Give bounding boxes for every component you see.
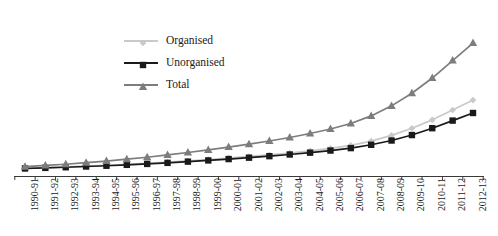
x-tick-label-text: 2001-02 — [254, 178, 264, 211]
x-tick-label: 1999-00 — [213, 178, 223, 211]
line-chart: Organised Unorganised Total 1990-911991-… — [0, 0, 498, 236]
legend-label-unorganised: Unorganised — [166, 56, 225, 69]
legend-item-unorganised: Unorganised — [124, 56, 225, 69]
x-tick-label: 1991-92 — [50, 178, 60, 211]
x-tick-label-text: 1998-99 — [192, 178, 202, 211]
x-tick-label-text: 2003-04 — [294, 178, 304, 211]
x-tick-label: 2006-07 — [355, 178, 365, 211]
x-tick-label-text: 1990-91 — [30, 178, 40, 211]
x-tick-label: 1990-91 — [30, 178, 40, 211]
x-axis-tick-labels: 1990-911991-921992-931993-941994-951995-… — [0, 178, 498, 236]
x-tick-label: 2007-08 — [376, 178, 386, 211]
x-tick-label: 1996-97 — [152, 178, 162, 211]
x-tick-label-text: 2011-12 — [457, 178, 467, 211]
plot-svg — [0, 0, 498, 180]
x-tick-label-text: 1993-94 — [91, 178, 101, 211]
x-tick-label-text: 1999-00 — [213, 178, 223, 211]
x-tick-label: 2000-01 — [233, 178, 243, 211]
x-tick-label: 2012-13 — [478, 178, 488, 211]
x-tick-label: 2003-04 — [294, 178, 304, 211]
x-tick-label: 2008-09 — [396, 178, 406, 211]
x-tick-label: 2009-10 — [416, 178, 426, 211]
x-tick-label-text: 2000-01 — [233, 178, 243, 211]
x-tick-label-text: 1995-96 — [131, 178, 141, 211]
x-tick-label-text: 2002-03 — [274, 178, 284, 211]
legend-key-unorganised-marker — [137, 59, 149, 71]
x-tick-label: 1992-93 — [70, 178, 80, 211]
x-tick-label: 1993-94 — [91, 178, 101, 211]
x-tick-label: 1995-96 — [131, 178, 141, 211]
x-tick-label-text: 2004-05 — [315, 178, 325, 211]
chart-legend: Organised Unorganised Total — [124, 34, 225, 91]
x-tick-label-text: 2007-08 — [376, 178, 386, 211]
legend-key-organised — [124, 34, 158, 47]
legend-key-organised-marker — [137, 37, 149, 49]
x-tick-label: 2005-06 — [335, 178, 345, 211]
x-tick-label: 2001-02 — [254, 178, 264, 211]
x-tick-label: 2010-11 — [437, 178, 447, 211]
x-tick-label-text: 2005-06 — [335, 178, 345, 211]
x-tick-label-text: 2010-11 — [437, 178, 447, 211]
legend-item-total: Total — [124, 78, 225, 91]
x-tick-label: 1998-99 — [192, 178, 202, 211]
legend-label-organised: Organised — [166, 34, 213, 47]
x-tick-label-text: 2012-13 — [478, 178, 488, 211]
x-tick-label-text: 1996-97 — [152, 178, 162, 211]
x-tick-label-text: 1992-93 — [70, 178, 80, 211]
legend-key-total-marker — [137, 81, 149, 93]
x-tick-label: 2002-03 — [274, 178, 284, 211]
legend-key-total — [124, 78, 158, 91]
x-tick-label: 2004-05 — [315, 178, 325, 211]
x-tick-label: 1997-98 — [172, 178, 182, 211]
legend-label-total: Total — [166, 78, 189, 91]
x-tick-label-text: 2009-10 — [416, 178, 426, 211]
legend-key-unorganised — [124, 56, 158, 69]
x-tick-label-text: 2006-07 — [355, 178, 365, 211]
legend-item-organised: Organised — [124, 34, 225, 47]
x-tick-label-text: 1997-98 — [172, 178, 182, 211]
plot-area — [0, 0, 498, 180]
x-tick-label-text: 1991-92 — [50, 178, 60, 211]
x-tick-label: 2011-12 — [457, 178, 467, 211]
x-tick-label-text: 1994-95 — [111, 178, 121, 211]
x-tick-label: 1994-95 — [111, 178, 121, 211]
x-tick-label-text: 2008-09 — [396, 178, 406, 211]
